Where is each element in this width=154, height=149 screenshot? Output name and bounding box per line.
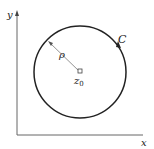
diagram: y x C ρ z0 <box>0 0 154 149</box>
y-axis-label: y <box>6 9 13 20</box>
curve-label: C <box>118 33 127 46</box>
center-point <box>78 69 82 73</box>
x-axis-label: x <box>141 137 147 148</box>
radius-line <box>50 43 80 72</box>
radius-label: ρ <box>58 49 65 60</box>
y-axis-arrow-icon <box>15 10 19 16</box>
center-label: z0 <box>73 75 84 88</box>
